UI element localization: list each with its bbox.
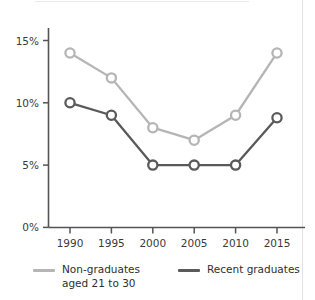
data-point-marker[interactable] [107, 111, 116, 120]
data-point-marker[interactable] [190, 161, 199, 170]
data-point-marker[interactable] [148, 161, 157, 170]
chart-legend: Non-graduates aged 21 to 30 Recent gradu… [0, 258, 315, 300]
x-tick-label-1995: 1995 [98, 237, 125, 249]
legend-item-recent-graduates[interactable]: Recent graduates [178, 263, 300, 277]
data-point-marker[interactable] [107, 73, 116, 82]
legend-label-non-graduates: Non-graduates aged 21 to 30 [62, 263, 140, 290]
series-line [70, 53, 277, 140]
data-point-marker[interactable] [65, 48, 74, 57]
y-tick-label-10: 10% [16, 97, 39, 109]
y-tick-label-15: 15% [16, 35, 39, 47]
data-point-marker[interactable] [148, 123, 157, 132]
data-point-marker[interactable] [231, 161, 240, 170]
chart-plot-area: 15% 10% 5% 0% 1990 1995 2000 2005 2010 2… [0, 0, 315, 300]
data-point-marker[interactable] [272, 48, 281, 57]
y-tick-label-0: 0% [22, 221, 39, 233]
legend-item-non-graduates[interactable]: Non-graduates aged 21 to 30 [33, 263, 140, 290]
data-point-marker[interactable] [231, 111, 240, 120]
line-chart: 15% 10% 5% 0% 1990 1995 2000 2005 2010 2… [0, 0, 315, 300]
x-tick-label-1990: 1990 [57, 237, 84, 249]
data-point-marker[interactable] [272, 113, 281, 122]
series-non-graduates [65, 48, 281, 144]
data-point-marker[interactable] [65, 98, 74, 107]
y-tick-label-5: 5% [22, 159, 39, 171]
x-tick-label-2000: 2000 [139, 237, 166, 249]
chart-page: 15% 10% 5% 0% 1990 1995 2000 2005 2010 2… [0, 0, 315, 300]
x-tick-label-2005: 2005 [181, 237, 208, 249]
legend-swatch-recent-graduates [178, 269, 200, 272]
data-point-marker[interactable] [190, 136, 199, 145]
x-tick-label-2015: 2015 [264, 237, 291, 249]
legend-label-recent-graduates: Recent graduates [207, 263, 300, 277]
x-tick-label-2010: 2010 [222, 237, 249, 249]
legend-swatch-non-graduates [33, 269, 55, 272]
series-layer [65, 48, 281, 169]
